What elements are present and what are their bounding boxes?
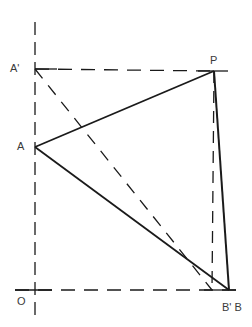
label-p: P: [210, 55, 217, 66]
label-o: O: [17, 296, 26, 307]
label-b-prime-b: B' B: [222, 302, 242, 313]
segment-a-p: [35, 71, 214, 147]
segment-a-b: [35, 147, 229, 290]
dashed-p-b-prime: [212, 71, 214, 290]
geometry-diagram: [0, 0, 252, 327]
label-a: A: [17, 141, 24, 152]
label-a-prime: A': [10, 63, 19, 74]
segment-p-b: [214, 71, 229, 290]
dashed-a-prime-p: [35, 69, 214, 71]
